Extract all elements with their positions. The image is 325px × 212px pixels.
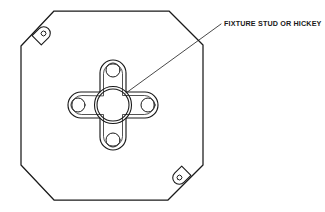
fixture-strap-hub-inner-circle [97, 89, 129, 121]
mounting-tab-top-left-hole [40, 30, 47, 37]
fixture-stud-leader-line [126, 24, 221, 93]
mounting-tab-bottom-right-hole [176, 174, 183, 181]
fixture-stud-callout-label: FIXTURE STUD OR HICKEY [224, 19, 322, 28]
technical-drawing-figure: FIXTURE STUD OR HICKEY [0, 0, 325, 212]
strap-hole-right [141, 98, 155, 112]
strap-hole-top [106, 63, 120, 77]
outlet-box-drawing: FIXTURE STUD OR HICKEY [0, 0, 325, 212]
mounting-tab-bottom-right-body [170, 166, 191, 187]
strap-hole-bottom [106, 133, 120, 147]
mounting-tab-top-left [32, 24, 53, 45]
mounting-tab-bottom-right [170, 166, 191, 187]
strap-hole-left [71, 98, 85, 112]
cross-fixture-strap [68, 60, 158, 150]
fixture-strap-hub-outer-circle [95, 87, 132, 124]
fixture-strap-inner-offset [72, 64, 154, 146]
fixture-strap-outline [68, 60, 158, 150]
mounting-tab-top-left-body [32, 24, 53, 45]
